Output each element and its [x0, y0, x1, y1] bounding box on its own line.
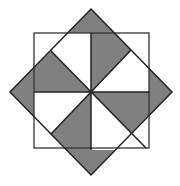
geometry-figure: [0, 0, 180, 186]
